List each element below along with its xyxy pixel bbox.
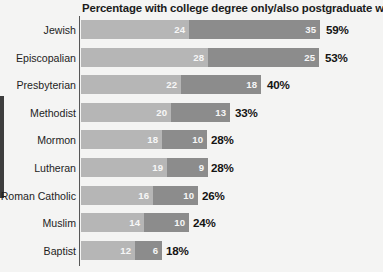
- table-row: Mormon181028%: [0, 127, 383, 154]
- bar-segment-postgraduate: 9: [167, 158, 208, 177]
- category-label: Lutheran: [34, 155, 76, 182]
- bar-segment-value: 10: [192, 130, 203, 149]
- category-label: Muslim: [42, 210, 76, 237]
- row-total-label: 26%: [202, 186, 225, 205]
- table-row: Episcopalian282553%: [0, 45, 383, 72]
- category-label: Mormon: [37, 127, 76, 154]
- bar-segment-value: 25: [304, 48, 315, 67]
- bar-segment-value: 18: [246, 75, 257, 94]
- stacked-bar: 1410: [81, 213, 189, 232]
- stacked-bar: 1610: [81, 186, 198, 205]
- category-label: Episcopalian: [16, 45, 76, 72]
- bar-segment-degree-only: 16: [81, 186, 153, 205]
- bar-segment-value: 22: [166, 75, 177, 94]
- bar-segment-value: 10: [183, 186, 194, 205]
- bar-segment-degree-only: 22: [81, 75, 181, 94]
- bar-segment-postgraduate: 6: [135, 241, 162, 260]
- bar-segment-degree-only: 20: [81, 103, 171, 122]
- table-row: Muslim141024%: [0, 210, 383, 237]
- bar-segment-postgraduate: 13: [171, 103, 230, 122]
- bar-segment-value: 6: [153, 241, 158, 260]
- category-label: Presbyterian: [17, 72, 76, 99]
- stacked-bar: 2825: [81, 48, 319, 67]
- bar-segment-value: 14: [129, 213, 140, 232]
- row-total-label: 40%: [267, 75, 290, 94]
- row-total-label: 59%: [326, 20, 349, 39]
- stacked-bar: 2218: [81, 75, 261, 94]
- row-total-label: 18%: [166, 241, 189, 260]
- category-label: Baptist: [44, 238, 76, 265]
- bar-segment-degree-only: 19: [81, 158, 167, 177]
- bar-segment-value: 24: [174, 20, 185, 39]
- stacked-bar: 1810: [81, 130, 207, 149]
- bar-segment-value: 13: [215, 103, 226, 122]
- stacked-bar: 2435: [81, 20, 320, 39]
- row-total-label: 28%: [211, 130, 234, 149]
- stacked-bar: 199: [81, 158, 208, 177]
- bar-segment-postgraduate: 10: [162, 130, 207, 149]
- bar-segment-degree-only: 18: [81, 130, 162, 149]
- category-label: Jewish: [44, 17, 76, 44]
- table-row: Jewish243559%: [0, 17, 383, 44]
- bar-segment-postgraduate: 10: [144, 213, 189, 232]
- bar-segment-value: 18: [147, 130, 158, 149]
- table-row: Methodist201333%: [0, 100, 383, 127]
- bar-segment-value: 20: [156, 103, 167, 122]
- table-row: Presbyterian221840%: [0, 72, 383, 99]
- row-total-label: 24%: [193, 213, 216, 232]
- bar-segment-degree-only: 12: [81, 241, 135, 260]
- bar-segment-value: 19: [152, 158, 163, 177]
- bar-segment-value: 16: [138, 186, 149, 205]
- category-label: Methodist: [30, 100, 76, 127]
- bar-segment-degree-only: 28: [81, 48, 208, 67]
- bar-segment-value: 35: [305, 20, 316, 39]
- table-row: Lutheran19928%: [0, 155, 383, 182]
- chart-figure: Percentage with college degree only/also…: [0, 0, 383, 272]
- bar-segment-degree-only: 24: [81, 20, 189, 39]
- bar-segment-postgraduate: 35: [189, 20, 320, 39]
- bar-segment-value: 12: [120, 241, 131, 260]
- row-total-label: 33%: [235, 103, 258, 122]
- category-label: Roman Catholic: [1, 183, 76, 210]
- bar-segment-value: 10: [174, 213, 185, 232]
- table-row: Roman Catholic161026%: [0, 183, 383, 210]
- table-row: Baptist12618%: [0, 238, 383, 265]
- row-total-label: 53%: [325, 48, 348, 67]
- plot-area: Jewish243559%Episcopalian282553%Presbyte…: [0, 16, 383, 272]
- bar-segment-postgraduate: 10: [153, 186, 198, 205]
- stacked-bar: 126: [81, 241, 162, 260]
- stacked-bar: 2013: [81, 103, 230, 122]
- bar-segment-postgraduate: 18: [181, 75, 261, 94]
- bar-segment-degree-only: 14: [81, 213, 144, 232]
- bar-segment-value: 28: [193, 48, 204, 67]
- row-total-label: 28%: [211, 158, 234, 177]
- bar-segment-value: 9: [199, 158, 204, 177]
- chart-title: Percentage with college degree only/also…: [82, 1, 381, 15]
- bar-segment-postgraduate: 25: [208, 48, 319, 67]
